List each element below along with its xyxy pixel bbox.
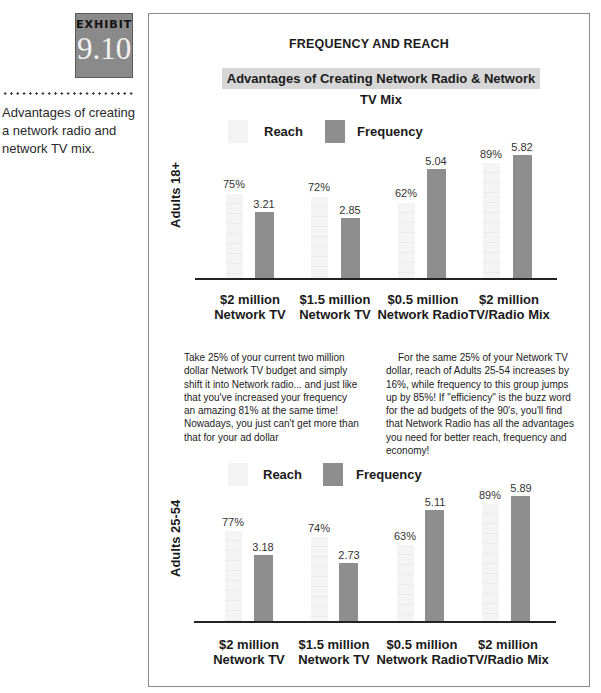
- frequency-value: 5.11: [415, 496, 455, 508]
- category-line2: Network Radio: [373, 307, 473, 322]
- legend-reach-label: Reach: [263, 467, 302, 482]
- x-axis-baseline: [195, 278, 557, 280]
- category-line1: $1.5 million: [284, 637, 384, 652]
- reach-bar: [483, 163, 500, 279]
- frequency-value: 3.21: [244, 198, 284, 210]
- category-line1: $0.5 million: [372, 637, 472, 652]
- reach-bar: [311, 197, 328, 279]
- frequency-value: 5.82: [502, 141, 542, 153]
- category-line1: $2 million: [459, 292, 559, 307]
- legend-reach-label: Reach: [264, 124, 303, 139]
- exhibit-label: EXHIBIT: [76, 18, 132, 31]
- frequency-value: 5.89: [501, 482, 541, 494]
- exhibit-badge: EXHIBIT 9.10: [75, 13, 133, 78]
- frequency-bar: [511, 496, 530, 622]
- reach-value: 63%: [385, 530, 425, 542]
- frequency-bar: [255, 212, 274, 279]
- category-label: $2 million TV/Radio Mix: [458, 637, 558, 667]
- category-label: $2 million TV/Radio Mix: [459, 292, 559, 322]
- reach-value: 75%: [214, 178, 254, 190]
- frequency-value: 2.73: [329, 549, 369, 561]
- legend-reach-swatch: [228, 463, 248, 486]
- exhibit-caption: Advantages of creating a network radio a…: [2, 104, 142, 158]
- category-line1: $2 million: [458, 637, 558, 652]
- y-axis-label: Adults 25-54: [168, 500, 183, 577]
- category-line1: $0.5 million: [373, 292, 473, 307]
- dotted-divider: [2, 92, 135, 95]
- frequency-value: 3.18: [243, 541, 283, 553]
- category-line2: TV/Radio Mix: [458, 652, 558, 667]
- x-axis-baseline: [194, 621, 556, 623]
- frequency-value: 5.04: [416, 155, 456, 167]
- frequency-bar: [513, 155, 532, 279]
- frequency-bar: [254, 555, 273, 622]
- category-line2: Network Radio: [372, 652, 472, 667]
- figure-title: FREQUENCY AND REACH: [148, 37, 590, 51]
- category-line2: Network TV: [285, 307, 385, 322]
- reach-value: 77%: [213, 516, 253, 528]
- legend-reach-swatch: [228, 120, 248, 143]
- paragraph-left: Take 25% of your current two million dol…: [184, 351, 359, 444]
- reach-bar: [225, 531, 242, 622]
- reach-bar: [398, 203, 415, 279]
- category-label: $0.5 million Network Radio: [372, 637, 472, 667]
- reach-bar: [226, 194, 243, 279]
- paragraph-right: For the same 25% of your Network TV doll…: [386, 351, 576, 457]
- category-label: $1.5 million Network TV: [285, 292, 385, 322]
- frequency-bar: [425, 510, 444, 622]
- legend-frequency-label: Frequency: [356, 467, 422, 482]
- reach-value: 72%: [299, 181, 339, 193]
- reach-value: 62%: [386, 187, 426, 199]
- category-line1: $1.5 million: [285, 292, 385, 307]
- y-axis-label: Adults 18+: [168, 162, 183, 228]
- reach-bar: [311, 537, 328, 622]
- category-line2: TV/Radio Mix: [459, 307, 559, 322]
- frequency-bar: [341, 218, 360, 279]
- figure-subtitle: Advantages of Creating Network Radio & N…: [222, 68, 540, 89]
- category-line2: Network TV: [284, 652, 384, 667]
- category-label: $0.5 million Network Radio: [373, 292, 473, 322]
- legend-frequency-swatch: [323, 463, 343, 486]
- category-label: $1.5 million Network TV: [284, 637, 384, 667]
- exhibit-number: 9.10: [76, 31, 132, 67]
- reach-bar: [482, 504, 499, 622]
- legend-frequency-label: Frequency: [357, 124, 423, 139]
- frequency-bar: [427, 169, 446, 279]
- reach-value: 74%: [299, 522, 339, 534]
- frequency-bar: [339, 563, 358, 622]
- reach-bar: [397, 545, 414, 622]
- legend-frequency-swatch: [325, 120, 345, 143]
- frequency-value: 2.85: [330, 204, 370, 216]
